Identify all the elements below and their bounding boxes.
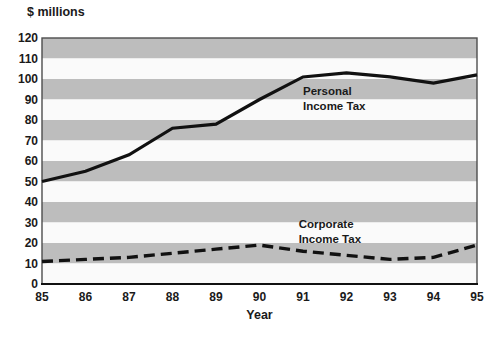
y-tick-label: 80: [2, 112, 38, 128]
grid-band: [42, 59, 477, 80]
grid-band: [42, 243, 477, 264]
x-tick-label: 86: [72, 290, 100, 304]
x-tick-label: 94: [420, 290, 448, 304]
x-tick-label: 95: [463, 290, 491, 304]
y-tick-label: 10: [2, 256, 38, 272]
series-label-personal-income-tax: Personal Income Tax: [303, 84, 365, 113]
x-tick-label: 89: [202, 290, 230, 304]
x-tick-label: 91: [289, 290, 317, 304]
y-tick-label: 70: [2, 133, 38, 149]
grid-band: [42, 79, 477, 100]
series-label-corporate-income-tax: Corporate Income Tax: [299, 217, 361, 246]
y-tick-label: 20: [2, 235, 38, 251]
grid-band: [42, 182, 477, 203]
plot-area: [0, 0, 495, 338]
x-axis-title: Year: [42, 308, 477, 322]
x-tick-label: 92: [333, 290, 361, 304]
y-tick-label: 40: [2, 194, 38, 210]
grid-band: [42, 223, 477, 244]
x-tick-label: 85: [28, 290, 56, 304]
y-tick-label: 120: [2, 30, 38, 46]
grid-band: [42, 264, 477, 285]
grid-band: [42, 141, 477, 162]
grid-band: [42, 100, 477, 121]
x-tick-label: 90: [246, 290, 274, 304]
x-tick-label: 93: [376, 290, 404, 304]
grid-band: [42, 38, 477, 59]
grid-band: [42, 120, 477, 141]
x-tick-label: 88: [159, 290, 187, 304]
x-tick-label: 87: [115, 290, 143, 304]
y-tick-label: 100: [2, 71, 38, 87]
y-tick-label: 50: [2, 174, 38, 190]
grid-band: [42, 202, 477, 223]
y-tick-label: 30: [2, 215, 38, 231]
y-tick-label: 90: [2, 92, 38, 108]
y-tick-label: 110: [2, 51, 38, 67]
line-chart: $ millions 1201101009080706050403020100 …: [0, 0, 495, 338]
y-tick-label: 60: [2, 153, 38, 169]
